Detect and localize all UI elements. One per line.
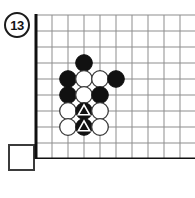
white-stone[interactable] [76,87,93,104]
white-stone[interactable] [92,71,109,88]
stone-black[interactable] [76,103,93,120]
black-stone[interactable] [108,71,125,88]
white-stone[interactable] [92,119,109,136]
stone-white[interactable] [92,103,109,120]
white-stone[interactable] [92,103,109,120]
go-board-canvas[interactable] [34,13,195,159]
stone-white[interactable] [92,71,109,88]
go-problem-figure: 13 [0,0,195,198]
black-stone[interactable] [92,87,109,104]
stone-white[interactable] [76,71,93,88]
stone-black[interactable] [76,119,93,136]
stone-white[interactable] [92,119,109,136]
white-stone[interactable] [76,71,93,88]
stone-black[interactable] [92,87,109,104]
stone-black[interactable] [76,55,93,72]
white-stone[interactable] [60,119,77,136]
stone-white[interactable] [60,119,77,136]
stone-black[interactable] [60,71,77,88]
move-number-label: 13 [10,19,23,32]
black-stone[interactable] [76,55,93,72]
stone-white[interactable] [76,87,93,104]
move-number-badge: 13 [4,12,30,38]
black-stone[interactable] [60,71,77,88]
stone-black[interactable] [108,71,125,88]
stone-white[interactable] [60,103,77,120]
white-stone[interactable] [60,103,77,120]
answer-box[interactable] [8,144,35,171]
stone-black[interactable] [60,87,77,104]
go-board[interactable] [34,13,195,159]
black-stone[interactable] [60,87,77,104]
